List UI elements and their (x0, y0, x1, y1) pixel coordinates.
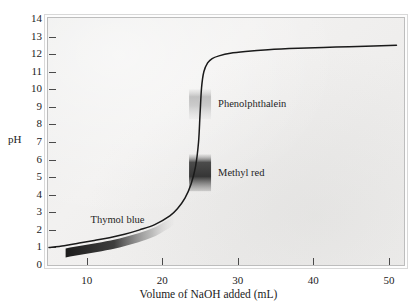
y-axis-title: pH (8, 133, 21, 145)
x-axis-title: Volume of NaOH added (mL) (0, 288, 417, 300)
titration-curve-figure: 01234567891011121314 1020304050 pH Volum… (0, 0, 417, 306)
x-tick-label-30: 30 (223, 275, 253, 286)
x-tick-label-50: 50 (374, 275, 404, 286)
x-tick-label-40: 40 (298, 275, 328, 286)
titration-curve-line (49, 19, 404, 265)
indicator-label-methyl-red: Methyl red (218, 167, 264, 178)
indicator-label-phenolphthalein: Phenolphthalein (218, 98, 286, 109)
indicator-label-thymol-blue: Thymol blue (91, 214, 145, 225)
indicator-band-methyl-red (189, 154, 211, 191)
plot-area: Phenolphthalein Methyl red Thymol blue (49, 19, 404, 265)
x-tick-label-20: 20 (147, 275, 177, 286)
x-tick-label-10: 10 (72, 275, 102, 286)
